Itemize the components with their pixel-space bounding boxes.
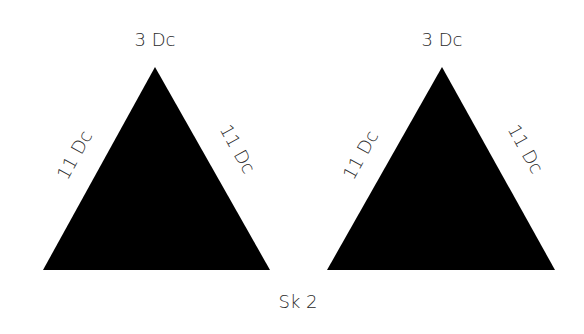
left-triangle-top-label: 3 Dc — [135, 29, 176, 50]
left-triangle-group: 3 Dc 11 Dc 11 Dc — [43, 29, 270, 270]
skip-label: Sk 2 — [278, 291, 317, 312]
crochet-diagram: 3 Dc 11 Dc 11 Dc 3 Dc 11 Dc 11 Dc Sk 2 — [0, 0, 584, 334]
left-triangle-right-side-label: 11 Dc — [216, 121, 260, 177]
right-triangle-left-side-label: 11 Dc — [338, 127, 382, 183]
left-triangle-left-side-label: 11 Dc — [52, 127, 96, 183]
right-triangle-group: 3 Dc 11 Dc 11 Dc — [327, 29, 555, 270]
right-triangle-top-label: 3 Dc — [422, 29, 463, 50]
right-triangle-right-side-label: 11 Dc — [504, 121, 548, 177]
